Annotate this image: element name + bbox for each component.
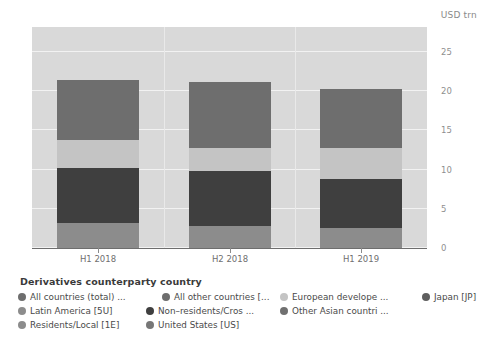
bar-segment xyxy=(189,226,271,248)
gridline-x-1 xyxy=(295,27,296,248)
bar-segment xyxy=(189,171,271,226)
legend-row: All countries (total) ...All other count… xyxy=(18,292,478,306)
bar-segment xyxy=(320,228,402,248)
legend-item-label: Non–residents/Cros ... xyxy=(158,306,254,316)
legend-item[interactable]: Other Asian countri ... xyxy=(280,306,389,316)
plot-area xyxy=(32,27,427,248)
y-axis-tick-label: 20 xyxy=(441,86,452,96)
legend-item[interactable]: Latin America [5U] xyxy=(18,306,113,316)
legend-swatch-icon xyxy=(146,307,154,315)
legend-swatch-icon xyxy=(162,293,170,301)
bar-segment xyxy=(320,89,402,148)
y-axis-tick-label: 5 xyxy=(441,204,446,214)
bar-segment xyxy=(57,140,139,168)
y-axis-tick-label: 0 xyxy=(441,243,446,253)
bar-segment xyxy=(189,82,271,148)
legend-item-label: Residents/Local [1E] xyxy=(30,320,119,330)
x-axis-tick-mark xyxy=(98,248,99,253)
legend-swatch-icon xyxy=(18,307,26,315)
legend-item[interactable]: United States [US] xyxy=(146,320,239,330)
legend-item[interactable]: Japan [JP] xyxy=(422,292,476,302)
legend-item-label: European develope ... xyxy=(292,292,388,302)
gridline-x-0 xyxy=(164,27,165,248)
y-axis-tick-label: 25 xyxy=(441,47,452,57)
gridline-y-25 xyxy=(32,51,427,52)
bar-segment xyxy=(189,148,271,172)
x-axis-tick-mark xyxy=(361,248,362,253)
chart-legend: Derivatives counterparty country All cou… xyxy=(18,276,478,334)
legend-title: Derivatives counterparty country xyxy=(20,276,478,287)
chart-card: USD trn 0510152025 H1 2018H2 2018H1 2019 xyxy=(16,8,479,270)
legend-swatch-icon xyxy=(280,293,288,301)
legend-item[interactable]: Residents/Local [1E] xyxy=(18,320,119,330)
legend-items: All countries (total) ...All other count… xyxy=(18,292,478,334)
legend-swatch-icon xyxy=(18,293,26,301)
y-axis-unit-label: USD trn xyxy=(441,10,477,20)
legend-item-label: All other countries [... xyxy=(174,292,269,302)
bar-h1-2018 xyxy=(57,80,139,248)
y-axis-tick-label: 15 xyxy=(441,125,452,135)
legend-item-label: Latin America [5U] xyxy=(30,306,113,316)
x-axis-tick-label: H1 2019 xyxy=(343,254,379,264)
legend-item[interactable]: Non–residents/Cros ... xyxy=(146,306,254,316)
legend-item-label: All countries (total) ... xyxy=(30,292,126,302)
legend-swatch-icon xyxy=(146,321,154,329)
bar-h1-2019 xyxy=(320,89,402,248)
bar-segment xyxy=(320,148,402,179)
legend-item[interactable]: All other countries [... xyxy=(162,292,269,302)
legend-swatch-icon xyxy=(422,293,430,301)
bar-h2-2018 xyxy=(189,82,271,248)
legend-item[interactable]: All countries (total) ... xyxy=(18,292,126,302)
x-axis-tick-label: H2 2018 xyxy=(212,254,248,264)
bar-segment xyxy=(57,168,139,223)
bar-segment xyxy=(320,179,402,228)
legend-item-label: Other Asian countri ... xyxy=(292,306,389,316)
y-axis-tick-label: 10 xyxy=(441,165,452,175)
legend-swatch-icon xyxy=(18,321,26,329)
x-axis-tick-mark xyxy=(230,248,231,253)
legend-row: Latin America [5U]Non–residents/Cros ...… xyxy=(18,306,478,320)
x-axis-tick-label: H1 2018 xyxy=(80,254,116,264)
legend-row: Residents/Local [1E]United States [US] xyxy=(18,320,478,334)
legend-item[interactable]: European develope ... xyxy=(280,292,388,302)
y-axis: 0510152025 xyxy=(427,27,479,248)
bar-segment xyxy=(57,223,139,248)
legend-item-label: Japan [JP] xyxy=(434,292,476,302)
legend-item-label: United States [US] xyxy=(158,320,239,330)
chart-screenshot: USD trn 0510152025 H1 2018H2 2018H1 2019… xyxy=(0,0,495,346)
bar-segment xyxy=(57,80,139,140)
legend-swatch-icon xyxy=(280,307,288,315)
